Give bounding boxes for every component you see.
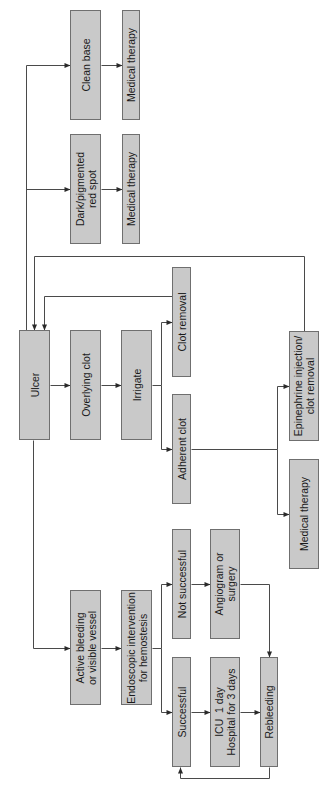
flowchart: Clean base Medical therapy Dark/pigmente… — [0, 0, 329, 809]
node-label: Medical therapy — [125, 28, 137, 102]
node-clean-base: Clean base — [70, 10, 101, 120]
node-adherent-clot: Adherent clot — [172, 394, 191, 504]
node-irrigate: Irrigate — [121, 330, 152, 440]
node-rebleeding: Rebleeding — [260, 657, 278, 767]
connector-endoscopic-to-successful — [162, 649, 173, 713]
node-angiogram-or-surgery: Angiogram or surgery — [210, 529, 240, 639]
node-not-successful: Not successful — [172, 529, 191, 639]
node-label: Irrigate — [131, 369, 143, 402]
node-label: Not successful — [176, 550, 188, 618]
connector-adherent_clot-to-med_therapy_3 — [278, 450, 290, 515]
connector-angiogram-to-rebleeding — [241, 585, 270, 658]
node-label: Endoscopic intervention for hemostesis — [125, 592, 149, 704]
node-medical-therapy-3: Medical therapy — [289, 459, 319, 569]
node-label: Dark/pigmented red spot — [74, 152, 98, 226]
node-icu-hospital: ICU 1 day Hospital for 3 days — [210, 657, 240, 767]
node-ulcer: Ulcer — [19, 330, 50, 440]
node-label: Clot removal — [176, 293, 188, 352]
arrowhead-icon — [178, 768, 183, 774]
node-label: Adherent clot — [176, 418, 188, 480]
connector-irrigate-to-adherent_clot — [162, 386, 173, 450]
connector-ulcer-to-active_bleeding — [34, 441, 71, 649]
node-overlying-clot: Overlying clot — [70, 330, 101, 440]
connector-rebleeding-to-successful — [181, 768, 270, 779]
node-label: Successful — [176, 687, 188, 738]
connector-ulcer-to-clean_base — [27, 66, 71, 331]
node-label: Ulcer — [29, 373, 41, 398]
node-clot-removal: Clot removal — [172, 267, 191, 377]
node-successful: Successful — [172, 657, 191, 767]
node-epinephrine-injection: Epinephrine injection/ clot removal — [289, 331, 319, 441]
connector-epinephrine-to-ulcer — [35, 257, 305, 332]
node-label: ICU 1 day Hospital for 3 days — [213, 669, 237, 756]
node-label: Rebleeding — [263, 685, 275, 738]
node-medical-therapy-1: Medical therapy — [122, 10, 140, 120]
node-label: Overlying clot — [80, 353, 92, 417]
connector-irrigate-to-clot_removal — [153, 323, 173, 386]
connector-clot_removal-to-ulcer — [45, 297, 173, 331]
node-active-bleeding: Active bleeding or visible vessel — [70, 590, 101, 705]
node-label: Medical therapy — [125, 152, 137, 226]
node-label: Epinephrine injection/ clot removal — [292, 336, 316, 436]
connector-endoscopic-to-not_successful — [153, 585, 173, 649]
node-endoscopic-intervention: Endoscopic intervention for hemostesis — [121, 590, 152, 705]
node-label: Clean base — [80, 38, 92, 91]
node-medical-therapy-2: Medical therapy — [122, 134, 140, 244]
node-label: Active bleeding or visible vessel — [74, 610, 98, 684]
node-dark-pigmented-spot: Dark/pigmented red spot — [70, 134, 101, 244]
node-label: Angiogram or surgery — [213, 552, 237, 615]
connector-adherent_clot-to-epinephrine — [192, 387, 290, 450]
node-label: Medical therapy — [298, 477, 310, 551]
